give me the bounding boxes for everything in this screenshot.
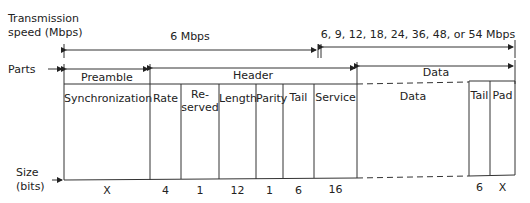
parts-label: Parts bbox=[8, 63, 35, 76]
field-tail-2: Tail bbox=[469, 89, 490, 102]
header-speed-label: 6 Mbps bbox=[170, 30, 210, 43]
field-data: Data bbox=[357, 90, 469, 103]
size-label-line2: (bits) bbox=[16, 180, 45, 193]
size-service: 16 bbox=[314, 183, 357, 196]
part-data: Data bbox=[423, 66, 449, 79]
field-reserved-line1: Re- bbox=[181, 88, 219, 101]
speed-label-line2: speed (Mbps) bbox=[8, 26, 83, 39]
size-rate: 4 bbox=[150, 184, 181, 197]
field-reserved-line2: served bbox=[181, 101, 219, 114]
size-tail-2: 6 bbox=[469, 181, 490, 194]
field-length: Length bbox=[219, 92, 256, 105]
part-header: Header bbox=[233, 69, 273, 82]
speed-label-line1: Transmission bbox=[8, 12, 79, 25]
size-parity: 1 bbox=[256, 184, 283, 197]
size-label-line1: Size bbox=[16, 166, 39, 179]
size-tail: 6 bbox=[283, 184, 314, 197]
size-length: 12 bbox=[219, 184, 256, 197]
size-reserved: 1 bbox=[181, 184, 219, 197]
field-reserved: Re- served bbox=[181, 88, 219, 114]
field-service: Service bbox=[314, 91, 357, 104]
size-synchronization: X bbox=[64, 184, 150, 197]
field-synchronization: Synchronization bbox=[64, 92, 150, 105]
data-speed-label: 6, 9, 12, 18, 24, 36, 48, or 54 Mbps bbox=[321, 28, 515, 41]
size-pad: X bbox=[490, 181, 515, 194]
field-parity: Parity bbox=[256, 92, 283, 105]
field-tail: Tail bbox=[283, 91, 314, 104]
part-preamble: Preamble bbox=[81, 71, 133, 84]
field-pad: Pad bbox=[490, 89, 515, 102]
field-rate: Rate bbox=[150, 92, 181, 105]
